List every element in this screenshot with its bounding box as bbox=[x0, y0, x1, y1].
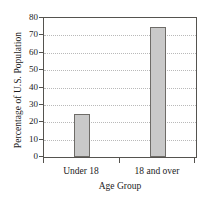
y-axis-tick-labels: 01020304050607080 bbox=[19, 17, 38, 158]
y-tick-label: 20 bbox=[19, 117, 38, 126]
gridline bbox=[44, 122, 196, 123]
x-tick-mark bbox=[194, 158, 195, 163]
x-tick-mark bbox=[119, 158, 120, 163]
y-tick-label: 70 bbox=[19, 30, 38, 39]
y-tick-label: 30 bbox=[19, 99, 38, 108]
gridline bbox=[44, 35, 196, 36]
y-tick-label: 0 bbox=[19, 152, 38, 161]
gridline bbox=[44, 88, 196, 89]
y-tick-label: 10 bbox=[19, 134, 38, 143]
y-tick-label: 80 bbox=[19, 13, 38, 22]
y-tick-label: 50 bbox=[19, 65, 38, 74]
x-tick-label: 18 and over bbox=[135, 165, 180, 177]
y-tick-label: 60 bbox=[19, 47, 38, 56]
y-tick-label: 40 bbox=[19, 82, 38, 91]
x-tick-mark bbox=[43, 158, 44, 163]
bar bbox=[150, 27, 166, 157]
x-axis-tick-marks bbox=[43, 158, 197, 163]
x-axis-title: Age Group bbox=[43, 180, 197, 192]
bar bbox=[74, 114, 90, 157]
gridline bbox=[44, 105, 196, 106]
gridline bbox=[44, 140, 196, 141]
plot-area bbox=[43, 17, 197, 158]
gridline bbox=[44, 53, 196, 54]
bar-chart-figure: Percentage of U.S. Population 0102030405… bbox=[0, 0, 209, 201]
x-tick-label: Under 18 bbox=[63, 165, 99, 177]
x-axis-tick-labels: Under 1818 and over bbox=[43, 165, 197, 179]
gridline bbox=[44, 70, 196, 71]
